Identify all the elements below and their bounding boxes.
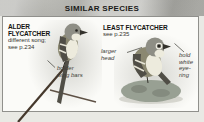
larger-head-pointer-line — [127, 48, 142, 53]
eye-ring-pointer-line — [175, 44, 185, 53]
pointer-lines-overlay — [0, 0, 204, 122]
similar-species-panel: SIMILAR SPECIES — [0, 0, 204, 122]
wing-bars-pointer-line — [48, 61, 56, 68]
